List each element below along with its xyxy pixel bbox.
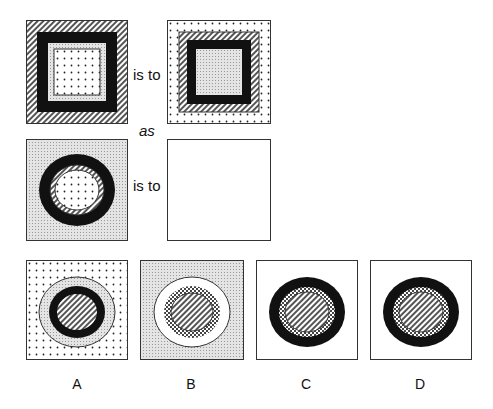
option-c-figure bbox=[256, 260, 358, 360]
figure-q2 bbox=[167, 20, 271, 124]
nested-squares-figure bbox=[26, 20, 128, 124]
option-c-label: C bbox=[296, 376, 316, 392]
as-text: as bbox=[139, 122, 155, 139]
option-d[interactable] bbox=[370, 260, 472, 360]
option-b[interactable] bbox=[140, 260, 244, 360]
figure-q3 bbox=[26, 139, 128, 241]
figure-q4-empty-answer bbox=[167, 139, 271, 241]
nested-circles-figure bbox=[26, 139, 128, 241]
option-d-figure bbox=[370, 260, 472, 360]
option-b-label: B bbox=[181, 376, 201, 392]
option-a-figure bbox=[26, 260, 128, 360]
option-a-label: A bbox=[67, 376, 87, 392]
figure-q1 bbox=[26, 20, 128, 124]
option-d-label: D bbox=[410, 376, 430, 392]
is-to-text-1: is to bbox=[133, 66, 161, 83]
is-to-text-2: is to bbox=[133, 177, 161, 194]
option-b-figure bbox=[140, 260, 244, 360]
option-a[interactable] bbox=[26, 260, 128, 360]
option-c[interactable] bbox=[256, 260, 358, 360]
nested-squares-figure bbox=[167, 20, 271, 124]
